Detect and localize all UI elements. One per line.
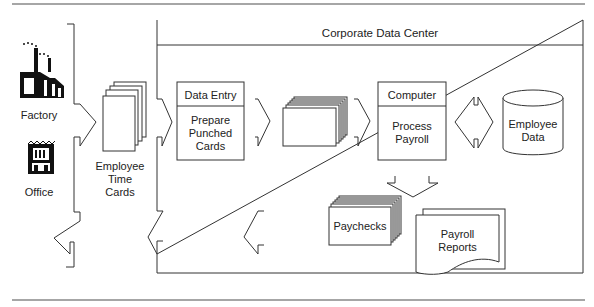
bidirectional-arrow bbox=[455, 97, 493, 148]
data-entry-description: Prepare Punched Cards bbox=[177, 114, 244, 153]
employee-data-label: Employee Data bbox=[503, 118, 563, 144]
payroll-flow-diagram bbox=[0, 0, 594, 307]
payroll-reports-label: Payroll Reports bbox=[416, 228, 499, 254]
time-cards-label: Employee Time Cards bbox=[92, 160, 148, 199]
arrow-to-punched-cards bbox=[255, 99, 270, 146]
arrow-to-outputs bbox=[387, 176, 438, 197]
source-label-factory: Factory bbox=[14, 109, 64, 122]
source-label-office: Office bbox=[14, 186, 64, 199]
arrow-to-computer bbox=[354, 99, 370, 146]
container-title: Corporate Data Center bbox=[180, 27, 580, 40]
factory-icon bbox=[20, 42, 64, 98]
time-cards-stack bbox=[103, 82, 146, 151]
data-entry-header: Data Entry bbox=[177, 89, 244, 102]
return-arrow-inner bbox=[244, 211, 264, 254]
source-bracket-arrows bbox=[54, 24, 96, 267]
computer-description: Process Payroll bbox=[378, 120, 446, 146]
office-building-icon bbox=[28, 141, 55, 174]
paychecks-label: Paychecks bbox=[329, 220, 391, 233]
punched-cards-deck bbox=[283, 97, 347, 146]
computer-header: Computer bbox=[378, 89, 446, 102]
